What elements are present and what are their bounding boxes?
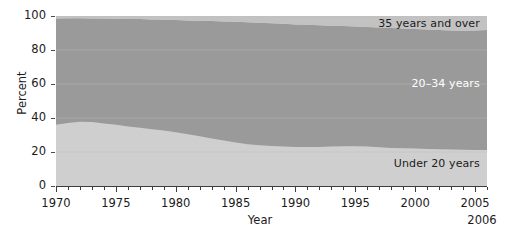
- y-tick-60: [51, 84, 55, 85]
- y-tick-label-60: 60: [6, 78, 46, 90]
- x-tick-1994: [343, 187, 344, 190]
- x-tick-1996: [367, 187, 368, 190]
- x-tick-1976: [128, 187, 129, 190]
- x-tick-label-1990: 1990: [265, 196, 325, 210]
- y-tick-20: [51, 152, 55, 153]
- x-tick-1998: [391, 187, 392, 190]
- x-tick-1997: [379, 187, 380, 190]
- x-tick-1991: [307, 187, 308, 190]
- x-tick-1989: [283, 187, 284, 190]
- y-tick-label-0: 0: [6, 180, 46, 192]
- x-tick-1988: [272, 187, 273, 190]
- x-tick-1987: [260, 187, 261, 190]
- x-tick-2001: [427, 187, 428, 190]
- x-tick-1972: [80, 187, 81, 190]
- x-tick-1977: [140, 187, 141, 190]
- x-tick-1993: [331, 187, 332, 190]
- x-tick-1975: [116, 187, 117, 192]
- x-tick-1982: [200, 187, 201, 190]
- x-tick-1995: [355, 187, 356, 192]
- x-axis-title: Year: [0, 213, 520, 227]
- x-tick-1978: [152, 187, 153, 190]
- series-label-20-34: 20–34 years: [411, 77, 479, 90]
- x-tick-1990: [295, 187, 296, 192]
- x-tick-2000: [415, 187, 416, 192]
- x-tick-1983: [212, 187, 213, 190]
- x-tick-1999: [403, 187, 404, 190]
- x-tick-2002: [439, 187, 440, 190]
- y-tick-label-100: 100: [6, 10, 46, 22]
- x-tick-1974: [104, 187, 105, 190]
- x-tick-2005: [475, 187, 476, 192]
- x-tick-2004: [463, 187, 464, 190]
- x-tick-label-1970: 1970: [26, 196, 86, 210]
- x-tick-2003: [451, 187, 452, 190]
- x-tick-label-2000: 2000: [385, 196, 445, 210]
- x-tick-1985: [236, 187, 237, 192]
- x-tick-1970: [56, 187, 57, 192]
- end-year-note: 2006: [452, 213, 512, 227]
- x-tick-1979: [164, 187, 165, 190]
- x-tick-label-1975: 1975: [86, 196, 146, 210]
- x-tick-label-2005: 2005: [445, 196, 505, 210]
- x-tick-label-1980: 1980: [146, 196, 206, 210]
- x-tick-1971: [68, 187, 69, 190]
- x-tick-label-1985: 1985: [206, 196, 266, 210]
- y-tick-0: [51, 186, 55, 187]
- x-tick-1992: [319, 187, 320, 190]
- series-label-under-20: Under 20 years: [394, 157, 480, 170]
- x-tick-1981: [188, 187, 189, 190]
- y-tick-40: [51, 118, 55, 119]
- y-tick-label-80: 80: [6, 44, 46, 56]
- x-tick-1986: [248, 187, 249, 190]
- x-tick-1973: [92, 187, 93, 190]
- y-tick-100: [51, 16, 55, 17]
- x-tick-label-1995: 1995: [325, 196, 385, 210]
- y-tick-label-20: 20: [6, 146, 46, 158]
- y-tick-label-40: 40: [6, 112, 46, 124]
- chart-figure: Percent 020406080100 Year 2006 35 years …: [0, 0, 520, 237]
- x-tick-1980: [176, 187, 177, 192]
- y-tick-80: [51, 50, 55, 51]
- x-tick-2006: [487, 187, 488, 190]
- series-label-35-plus: 35 years and over: [378, 17, 480, 30]
- x-tick-1984: [224, 187, 225, 190]
